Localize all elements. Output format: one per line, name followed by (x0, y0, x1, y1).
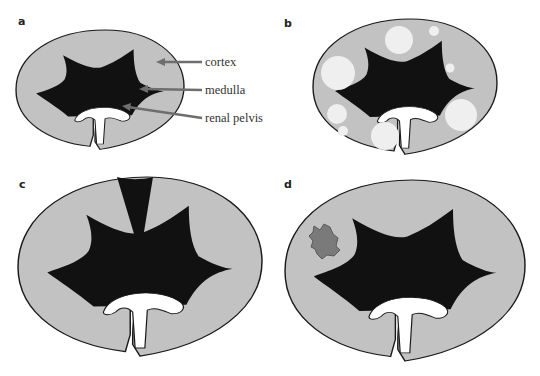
cyst (446, 64, 455, 73)
panel-c: c (18, 177, 262, 356)
kidney-d (285, 180, 525, 361)
panel-letter-a: a (18, 15, 25, 28)
arrow-medulla-line (145, 89, 202, 90)
cyst (321, 56, 355, 90)
cyst (429, 26, 439, 36)
cyst (385, 26, 413, 54)
panel-letter-c: c (19, 178, 26, 191)
cyst (445, 99, 477, 131)
label-cortex: cortex (205, 55, 237, 69)
label-renal-pelvis: renal pelvis (205, 111, 263, 125)
kidney-diagram-figure: a cortex medulla renal pelvis b (0, 0, 540, 376)
cyst (327, 104, 347, 124)
cyst (338, 126, 348, 136)
panel-a: a cortex medulla renal pelvis (16, 15, 263, 149)
panel-d: d (284, 178, 525, 361)
panel-b: b (284, 17, 497, 154)
cyst (371, 122, 399, 150)
panel-letter-b: b (284, 17, 292, 30)
label-medulla: medulla (205, 83, 246, 97)
panel-letter-d: d (284, 178, 292, 191)
